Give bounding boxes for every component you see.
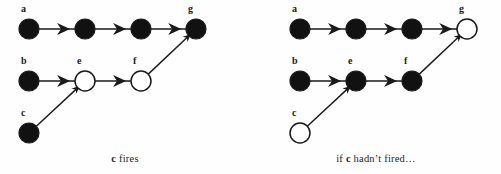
edge-b-to-e	[310, 75, 347, 87]
edge-a3-to-g	[422, 23, 458, 35]
edge-line	[148, 35, 189, 74]
node-label-f: f	[133, 56, 136, 66]
node-label-c: c	[292, 108, 296, 118]
node-a2-filled	[75, 19, 95, 39]
edge-line	[36, 87, 78, 126]
panel-c-fires: c fires agbefc	[0, 0, 250, 174]
causal-graph-figure: c fires agbefc if c hadn’t fired… agbefc	[0, 0, 501, 174]
edge-a3-to-g	[151, 23, 187, 35]
node-e-open	[75, 71, 95, 91]
panel-c-not-fired: if c hadn’t fired… agbefc	[251, 0, 501, 174]
edge-e-to-f	[95, 75, 132, 87]
node-label-f: f	[404, 56, 407, 66]
edge-c-to-e	[36, 86, 79, 126]
node-label-b: b	[21, 56, 27, 66]
node-e-filled	[346, 71, 366, 91]
caption-left: c fires	[0, 153, 250, 164]
node-label-e: e	[348, 56, 352, 66]
node-label-b: b	[292, 56, 298, 66]
node-f-filled	[402, 71, 422, 91]
edge-a2-to-a3	[95, 23, 132, 35]
edge-line	[307, 87, 349, 126]
node-label-a: a	[21, 4, 26, 14]
node-c-open	[290, 123, 310, 143]
edge-e-to-f	[366, 75, 403, 87]
edge-a-to-a2	[39, 23, 76, 35]
edge-a-to-a2	[310, 23, 347, 35]
node-a-filled	[290, 19, 310, 39]
panel-left-graph	[0, 0, 250, 174]
node-a3-filled	[402, 19, 422, 39]
edge-c-to-e	[307, 86, 350, 126]
edge-line	[419, 35, 460, 74]
caption-node-letter: c	[346, 153, 351, 164]
edge-a2-to-a3	[366, 23, 403, 35]
node-b-filled	[290, 71, 310, 91]
edge-f-to-g	[148, 34, 190, 74]
node-c-filled	[19, 123, 39, 143]
edge-f-to-g	[419, 34, 461, 74]
panel-right-graph	[251, 0, 501, 174]
node-label-g: g	[188, 4, 193, 14]
node-label-g: g	[459, 4, 464, 14]
node-label-c: c	[21, 108, 25, 118]
node-b-filled	[19, 71, 39, 91]
caption-right: if c hadn’t fired…	[251, 153, 501, 164]
node-label-e: e	[77, 56, 81, 66]
caption-node-letter: c	[111, 153, 116, 164]
edge-b-to-e	[39, 75, 76, 87]
node-label-a: a	[292, 4, 297, 14]
node-g-open	[457, 19, 477, 39]
node-a-filled	[19, 19, 39, 39]
node-g-filled	[186, 19, 206, 39]
node-f-open	[131, 71, 151, 91]
node-a2-filled	[346, 19, 366, 39]
node-a3-filled	[131, 19, 151, 39]
